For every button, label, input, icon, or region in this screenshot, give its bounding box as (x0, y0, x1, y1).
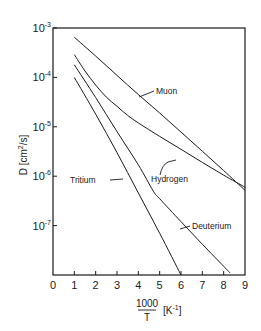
hydrogen-leader-line (160, 160, 176, 175)
y-tick-label: 10-6 (33, 169, 52, 182)
curve-muon (74, 37, 245, 190)
plot-frame (53, 28, 245, 275)
y-tick-label: 10-3 (33, 21, 52, 34)
curve-labels: Muon Hydrogen Deuterium Tritium (70, 86, 231, 231)
y-tick-label: 10-4 (33, 70, 52, 83)
x-tick-label: 2 (93, 279, 99, 291)
label-hydrogen: Hydrogen (151, 174, 188, 184)
label-muon: Muon (156, 86, 178, 96)
y-tick-label: 10-5 (33, 120, 52, 133)
label-tritium: Tritium (70, 175, 96, 185)
curve-deuterium (74, 65, 230, 273)
x-tick-label: 7 (199, 279, 205, 291)
curves (74, 37, 245, 275)
x-tick-label: 6 (178, 279, 184, 291)
muon-leader-line (139, 91, 154, 97)
x-tick-label: 4 (135, 279, 141, 291)
label-deuterium: Deuterium (192, 221, 231, 231)
y-axis-title: D [cm2/s] (17, 134, 29, 175)
svg-text:1000: 1000 (136, 298, 159, 309)
x-tick-label: 9 (242, 279, 248, 291)
x-axis: 0123456789 (50, 271, 248, 291)
x-tick-label: 8 (221, 279, 227, 291)
x-axis-title: 1000 T [K-1] (136, 298, 182, 323)
x-tick-label: 3 (114, 279, 120, 291)
tritium-leader-line (110, 179, 123, 180)
svg-text:T: T (144, 312, 150, 323)
x-tick-label: 1 (71, 279, 77, 291)
svg-text:[K-1]: [K-1] (163, 304, 182, 316)
x-tick-label: 5 (157, 279, 163, 291)
diffusion-chart: 10-310-410-510-610-7 0123456789 Muon Hyd… (0, 0, 261, 331)
y-tick-label: 10-7 (33, 219, 52, 232)
x-tick-label: 0 (50, 279, 56, 291)
